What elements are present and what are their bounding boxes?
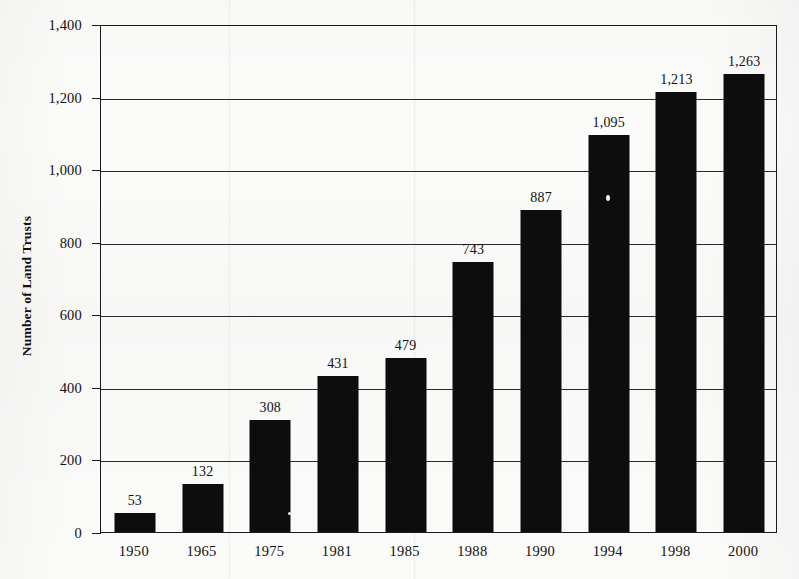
y-axis-tick-label: 1,000 — [0, 162, 82, 179]
bar-value-label: 743 — [463, 242, 485, 258]
y-axis-tick — [92, 460, 101, 461]
x-axis-tick-label: 2000 — [703, 543, 783, 560]
bar-group[interactable]: 1,213 — [643, 26, 711, 532]
bar-value-label: 431 — [327, 356, 349, 372]
bar-group[interactable]: 1,263 — [710, 26, 778, 532]
y-axis-tick-label: 1,200 — [0, 89, 82, 106]
y-axis-tick-label: 1,400 — [0, 17, 82, 34]
bar-value-label: 1,095 — [592, 115, 625, 131]
bar[interactable] — [250, 420, 291, 532]
y-axis-tick — [92, 170, 101, 171]
bar[interactable] — [182, 484, 223, 532]
bar[interactable] — [114, 513, 155, 532]
bar[interactable] — [521, 210, 562, 532]
bar-group[interactable]: 887 — [507, 26, 575, 532]
bar[interactable] — [724, 74, 765, 532]
bar-value-label: 1,263 — [728, 54, 761, 70]
y-axis-title: Number of Land Trusts — [19, 201, 35, 371]
bar-value-label: 1,213 — [660, 72, 693, 88]
bar-group[interactable]: 1,095 — [575, 26, 643, 532]
y-axis-tick-label: 400 — [0, 379, 82, 396]
bar-chart: Number of Land Trusts 531323084314797438… — [0, 0, 799, 579]
y-axis-tick-label: 200 — [0, 452, 82, 469]
y-axis-tick-label: 600 — [0, 307, 82, 324]
bar-value-label: 132 — [192, 464, 214, 480]
y-axis-tick — [92, 98, 101, 99]
y-axis-tick — [92, 243, 101, 244]
bar[interactable] — [317, 376, 358, 532]
bar-group[interactable]: 308 — [236, 26, 304, 532]
bar[interactable] — [453, 262, 494, 532]
bar[interactable] — [656, 92, 697, 532]
y-axis-tick-label: 0 — [0, 525, 82, 542]
bar-group[interactable]: 132 — [169, 26, 237, 532]
y-axis-tick — [92, 315, 101, 316]
bar-group[interactable]: 53 — [101, 26, 169, 532]
y-axis-tick — [92, 388, 101, 389]
bar-value-label: 479 — [395, 338, 417, 354]
y-axis-tick — [92, 25, 101, 26]
y-axis-tick-label: 800 — [0, 234, 82, 251]
plot-area: 531323084314797438871,0951,2131,263 — [100, 25, 777, 533]
bar-value-label: 53 — [128, 493, 142, 509]
bar-group[interactable]: 431 — [304, 26, 372, 532]
bar[interactable] — [588, 135, 629, 532]
bar-group[interactable]: 479 — [372, 26, 440, 532]
bar-value-label: 887 — [530, 190, 552, 206]
bar[interactable] — [385, 358, 426, 532]
bar-value-label: 308 — [259, 400, 281, 416]
y-axis-tick — [92, 533, 101, 534]
bar-group[interactable]: 743 — [440, 26, 508, 532]
